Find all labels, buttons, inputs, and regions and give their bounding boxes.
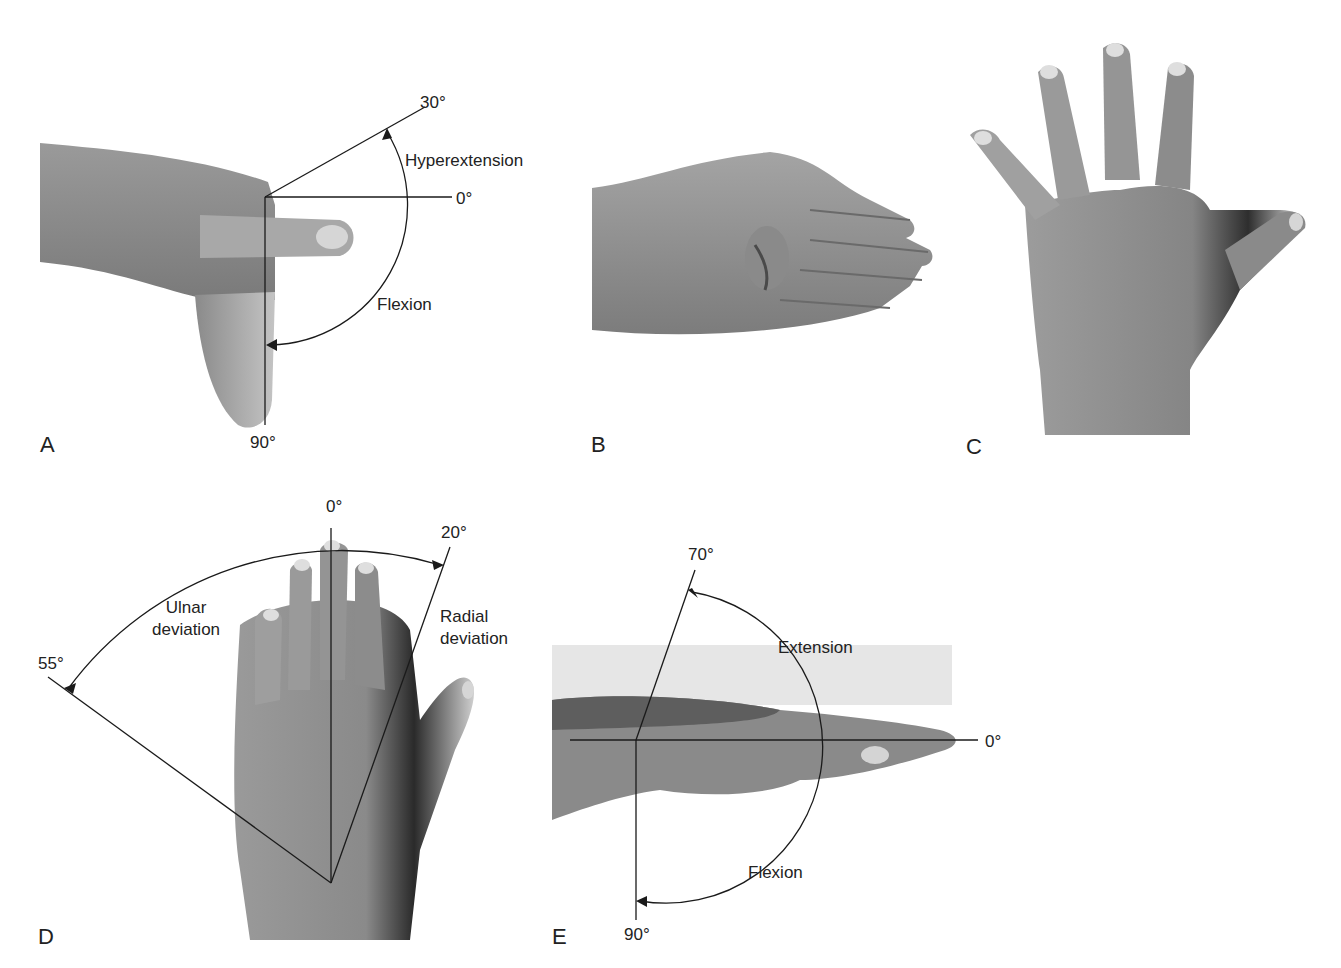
panel-a-illustration: [0, 0, 560, 470]
panel-b: B: [570, 140, 950, 470]
hand-c: [1025, 186, 1304, 435]
angle-label-30: 30°: [420, 93, 446, 113]
finger-index-d: [355, 563, 385, 690]
motion-label-radial-deviation: Radial deviation: [440, 606, 508, 650]
motion-label-ulnar-line2: deviation: [152, 619, 220, 641]
motion-label-radial-line2: deviation: [440, 628, 508, 650]
angle-label-0: 0°: [456, 189, 472, 209]
panel-label-b: B: [591, 432, 606, 458]
motion-label-hyperextension: Hyperextension: [405, 150, 523, 172]
finger-ring-c: [1038, 66, 1090, 200]
angle-label-20: 20°: [441, 523, 467, 543]
fingers-a: [195, 292, 275, 428]
finger-middle-c: [1103, 43, 1140, 180]
angle-label-0: 0°: [985, 732, 1001, 752]
panel-d-illustration: [0, 490, 540, 960]
angle-label-90: 90°: [624, 925, 650, 945]
motion-label-extension: Extension: [778, 637, 853, 659]
finger-little-d: [255, 609, 282, 705]
motion-label-ulnar-line1: Ulnar: [152, 597, 220, 619]
motion-label-ulnar-deviation: Ulnar deviation: [152, 597, 220, 641]
finger-index-c: [1155, 64, 1194, 190]
panel-label-e: E: [552, 924, 567, 950]
angle-label-70: 70°: [688, 545, 714, 565]
motion-label-radial-line1: Radial: [440, 606, 508, 628]
motion-label-flexion: Flexion: [748, 862, 803, 884]
angle-label-55: 55°: [38, 654, 64, 674]
panel-a: 30° 0° 90° Hyperextension Flexion A: [0, 0, 560, 470]
panel-d: 0° 20° 55° Ulnar deviation Radial deviat…: [0, 490, 540, 960]
finger-ring-d: [288, 563, 312, 691]
panel-e-illustration: [540, 530, 1040, 960]
finger-middle-d: [320, 543, 348, 681]
panel-label-d: D: [38, 924, 54, 950]
panel-label-c: C: [966, 434, 982, 460]
panel-c-illustration: [940, 30, 1340, 470]
panel-label-a: A: [40, 432, 55, 458]
angle-label-90: 90°: [250, 433, 276, 453]
panel-c: C: [940, 30, 1340, 470]
angle-label-0: 0°: [326, 497, 342, 517]
motion-label-flexion: Flexion: [377, 294, 432, 316]
panel-e: 70° 0° 90° Extension Flexion E: [540, 530, 1040, 960]
panel-b-illustration: [570, 140, 950, 470]
